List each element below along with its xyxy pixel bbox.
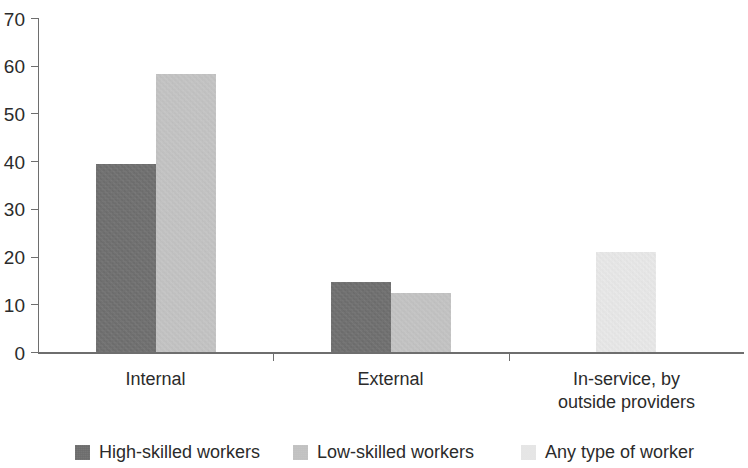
y-axis-line [38, 18, 39, 352]
bar-chart: 706050403020100 InternalExternalIn-servi… [0, 0, 748, 468]
y-axis-tick: 10 [31, 304, 38, 305]
y-axis-tick-label: 60 [4, 57, 25, 76]
y-axis-tick: 40 [31, 161, 38, 162]
legend-label: High-skilled workers [99, 443, 260, 461]
category-label-line: External [273, 368, 508, 391]
y-axis-tick-label: 30 [4, 200, 25, 219]
category-label: Internal [38, 368, 273, 391]
chart-legend: High-skilled workersLow-skilled workersA… [0, 440, 748, 468]
bar [96, 164, 156, 352]
x-axis-divider [509, 352, 510, 361]
x-axis-divider [273, 352, 274, 361]
x-axis-line [38, 352, 744, 354]
y-axis-tick-label: 70 [4, 9, 25, 28]
legend-label: Any type of worker [545, 443, 694, 461]
category-label: In-service, byoutside providers [509, 368, 744, 414]
y-axis-tick: 20 [31, 257, 38, 258]
y-axis-tick-label: 0 [14, 343, 25, 362]
y-axis-tick-label: 20 [4, 248, 25, 267]
legend-item[interactable]: High-skilled workers [75, 440, 260, 464]
legend-swatch-icon [521, 445, 536, 460]
bar [596, 252, 656, 352]
legend-label: Low-skilled workers [317, 443, 474, 461]
bar [156, 74, 216, 352]
category-label-line: In-service, by [509, 368, 744, 391]
y-axis-tick-label: 10 [4, 295, 25, 314]
category-label-line: Internal [38, 368, 273, 391]
y-axis-tick-label: 40 [4, 152, 25, 171]
bar [331, 282, 391, 352]
y-axis-tick: 60 [31, 66, 38, 67]
y-axis-tick: 70 [31, 18, 38, 19]
y-axis-tick-label: 50 [4, 104, 25, 123]
legend-item[interactable]: Any type of worker [521, 440, 694, 464]
bar [391, 293, 451, 352]
y-axis-tick: 50 [31, 113, 38, 114]
category-label-line: outside providers [509, 391, 744, 414]
y-axis-tick: 0 [31, 352, 38, 353]
legend-item[interactable]: Low-skilled workers [293, 440, 474, 464]
legend-swatch-icon [75, 445, 90, 460]
category-labels: InternalExternalIn-service, byoutside pr… [38, 368, 744, 420]
category-label: External [273, 368, 508, 391]
y-axis-tick: 30 [31, 209, 38, 210]
legend-swatch-icon [293, 445, 308, 460]
plot-area: 706050403020100 [38, 18, 744, 352]
